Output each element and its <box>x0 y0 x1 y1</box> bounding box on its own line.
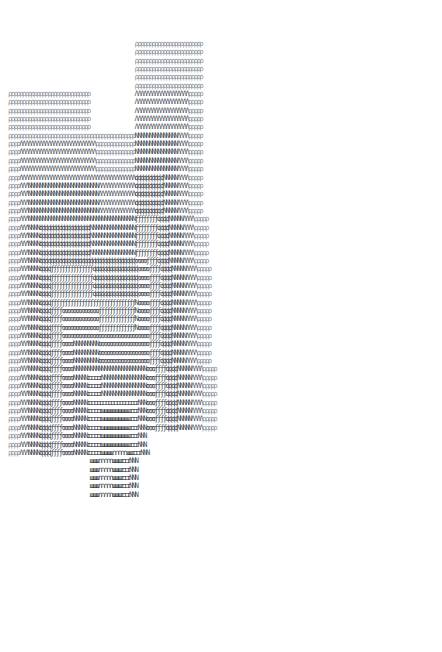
art-row: шшш∩∩∩∩∩шшшɪɪɪNNN <box>8 491 216 499</box>
ascii-art-canvas: ρρρρρρρρρρρρρρρρρρρρρρρρ ρρρρρρρρρρρρρρρ… <box>8 40 216 499</box>
